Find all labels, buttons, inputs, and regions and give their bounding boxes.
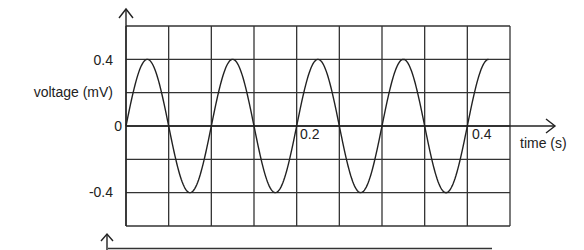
x-tick-label: 0.2 <box>300 126 320 142</box>
voltage-time-chart: voltage (mV) 0.4 0 -0.4 0.2 0.4 time (s) <box>0 0 584 250</box>
x-axis-label: time (s) <box>520 135 567 151</box>
labels: voltage (mV) 0.4 0 -0.4 0.2 0.4 time (s) <box>34 52 567 200</box>
y-tick-label: -0.4 <box>89 184 113 200</box>
y-tick-label: 0 <box>114 118 122 134</box>
x-tick-label: 0.4 <box>472 126 492 142</box>
y-axis-label: voltage (mV) <box>34 84 113 100</box>
y-tick-label: 0.4 <box>94 52 114 68</box>
